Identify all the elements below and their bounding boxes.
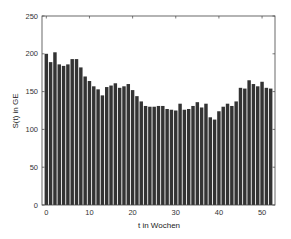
- bar: [213, 120, 216, 205]
- bar: [170, 110, 173, 205]
- bar: [230, 106, 233, 205]
- bar: [247, 80, 250, 205]
- bar: [49, 62, 52, 205]
- bar: [96, 89, 99, 205]
- bar: [75, 59, 78, 205]
- bar: [53, 52, 56, 205]
- bar: [152, 107, 155, 205]
- bar: [62, 66, 65, 205]
- bar: [79, 67, 82, 205]
- bar: [144, 106, 147, 205]
- bar: [127, 84, 130, 205]
- bar: [140, 101, 143, 205]
- bar: [252, 84, 255, 205]
- bar: [83, 76, 86, 205]
- y-tick-label: 100: [25, 125, 38, 134]
- bar-chart: 050100150200250 01020304050 t in Wochen …: [0, 0, 291, 239]
- bar: [114, 83, 117, 205]
- bar: [178, 104, 181, 205]
- bar: [70, 59, 73, 205]
- bar: [161, 106, 164, 205]
- bar: [187, 109, 190, 205]
- x-tick-label: 40: [215, 208, 223, 217]
- x-tick-label: 30: [172, 208, 180, 217]
- bar: [204, 104, 207, 205]
- bar: [234, 101, 237, 205]
- bar: [92, 86, 95, 205]
- bar: [200, 107, 203, 205]
- x-tick-label: 0: [44, 208, 48, 217]
- bar: [243, 89, 246, 205]
- bar: [226, 104, 229, 205]
- bar: [118, 88, 121, 205]
- bar: [157, 106, 160, 205]
- bar: [209, 117, 212, 205]
- bar: [105, 87, 108, 205]
- bar: [217, 111, 220, 205]
- y-axis-label: S(t) in GE: [11, 93, 20, 128]
- bar: [174, 111, 177, 206]
- x-tick-label: 50: [258, 208, 266, 217]
- bar: [191, 106, 194, 205]
- bar: [45, 54, 48, 205]
- x-tick-label: 10: [85, 208, 93, 217]
- bar-series: [45, 52, 273, 205]
- bar: [148, 107, 151, 205]
- y-tick-label: 250: [25, 12, 38, 21]
- x-axis-label: t in Wochen: [138, 221, 180, 230]
- bar: [222, 107, 225, 205]
- bar: [101, 95, 104, 205]
- bar: [131, 90, 134, 205]
- bar: [183, 110, 186, 205]
- y-tick-label: 50: [30, 163, 38, 172]
- bar: [135, 96, 138, 205]
- x-tick-label: 20: [128, 208, 136, 217]
- bar: [265, 88, 268, 205]
- bar: [256, 86, 259, 205]
- y-tick-label: 0: [34, 201, 38, 210]
- bar: [269, 89, 272, 205]
- y-tick-label: 200: [25, 49, 38, 58]
- bar: [58, 64, 61, 205]
- bar: [196, 102, 199, 205]
- y-tick-label: 150: [25, 87, 38, 96]
- bar: [88, 81, 91, 205]
- bar: [260, 82, 263, 205]
- bar: [239, 88, 242, 205]
- bar: [109, 86, 112, 205]
- bar: [122, 86, 125, 205]
- bar: [165, 109, 168, 205]
- bar: [66, 64, 69, 205]
